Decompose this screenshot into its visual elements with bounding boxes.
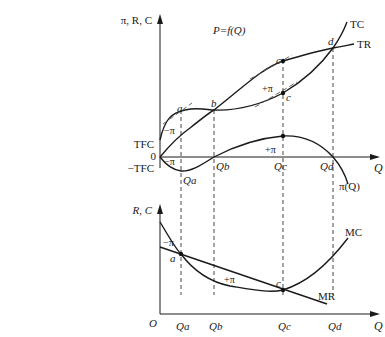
bottom-y-axis-label: R, C bbox=[131, 204, 152, 216]
bottom-tick-qd: Qd bbox=[328, 320, 342, 332]
mr-curve bbox=[160, 247, 327, 304]
neg-pi-curves-label: −π bbox=[164, 125, 175, 136]
top-tick-qc: Qc bbox=[274, 160, 287, 172]
point-profit-max bbox=[281, 134, 285, 138]
point-a-label: a bbox=[177, 102, 183, 114]
bottom-neg-pi-label: −π bbox=[163, 237, 174, 248]
bottom-tick-qa: Qa bbox=[176, 320, 190, 332]
point-c-upper bbox=[281, 59, 285, 63]
point-a-bottom bbox=[179, 252, 183, 256]
top-x-axis-label: Q bbox=[374, 161, 383, 175]
top-x-axis-arrow-icon bbox=[370, 154, 380, 160]
neg-pi-profit-label: −π bbox=[164, 156, 175, 167]
point-c-lower-label: c bbox=[286, 91, 291, 103]
bottom-x-axis-arrow-icon bbox=[370, 311, 380, 317]
mr-label: MR bbox=[318, 290, 336, 302]
profit-maximization-diagram: π, R, C Q P=f(Q) 0 TFC −TFC TC TR π(Q) a bbox=[0, 0, 385, 337]
point-c-upper-label: c bbox=[276, 54, 281, 66]
point-b-label: b bbox=[211, 97, 217, 109]
top-tick-qb: Qb bbox=[216, 160, 230, 172]
top-y-axis-arrow-icon bbox=[157, 14, 163, 24]
origin-label: 0 bbox=[151, 150, 157, 162]
bottom-pos-pi-label: +π bbox=[224, 274, 235, 285]
point-d-label: d bbox=[328, 35, 334, 47]
tc-label: TC bbox=[350, 18, 364, 30]
top-tick-qd: Qd bbox=[320, 160, 334, 172]
bottom-panel: R, C Q O MR MC a c −π +π Qa Qb Qc Qd bbox=[131, 204, 383, 333]
neg-tfc-label: −TFC bbox=[128, 162, 154, 174]
bottom-tick-qc: Qc bbox=[278, 320, 291, 332]
bottom-y-axis-arrow-icon bbox=[157, 204, 163, 214]
mc-label: MC bbox=[345, 226, 362, 238]
function-label: P=f(Q) bbox=[212, 24, 246, 37]
top-tick-qa: Qa bbox=[183, 174, 197, 186]
point-c-bottom bbox=[281, 288, 285, 292]
tr-label: TR bbox=[357, 38, 372, 50]
bottom-point-a-label: a bbox=[170, 252, 176, 264]
bottom-x-axis-label: Q bbox=[374, 319, 383, 333]
tc-curve bbox=[160, 22, 347, 140]
pos-pi-profit-label: +π bbox=[265, 144, 276, 155]
profit-curve-label: π(Q) bbox=[339, 180, 360, 193]
pos-pi-curves-label: +π bbox=[262, 83, 273, 94]
top-y-axis-label: π, R, C bbox=[121, 14, 152, 26]
bottom-tick-qb: Qb bbox=[209, 320, 223, 332]
point-c-lower bbox=[281, 91, 285, 95]
bottom-point-c-label: c bbox=[276, 277, 281, 289]
tfc-label: TFC bbox=[134, 138, 154, 150]
bottom-origin-label: O bbox=[149, 317, 157, 329]
